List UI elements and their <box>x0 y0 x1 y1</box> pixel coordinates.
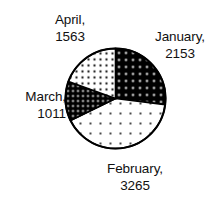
pie-label-february-name: February, <box>96 160 174 177</box>
pie-label-april-name: April, <box>40 11 100 28</box>
pie-label-february-value: 3265 <box>96 177 174 194</box>
pie-label-january-name: January, <box>146 28 214 45</box>
pie-label-april: April, 1563 <box>40 11 100 45</box>
pie-slice-january <box>116 49 166 105</box>
pie-label-april-value: 1563 <box>40 28 100 45</box>
pie-label-march-name: March, <box>4 88 66 105</box>
pie-chart-figure: April, 1563 January, 2153 March, 1011 Fe… <box>0 0 219 211</box>
pie-graphic <box>64 46 167 152</box>
pie-svg <box>64 46 167 152</box>
pie-label-march-value: 1011 <box>4 105 66 122</box>
pie-label-march: March, 1011 <box>4 88 66 122</box>
pie-label-february: February, 3265 <box>96 160 174 194</box>
